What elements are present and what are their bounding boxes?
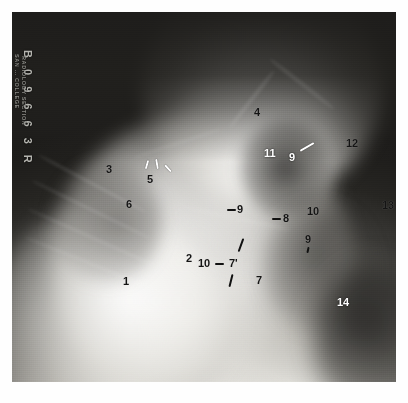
film-grain <box>12 12 396 382</box>
annotation-label-8: 8 <box>283 213 289 224</box>
xray-figure: B 0 9 6 6 3 R RADIOLOGY SECTION SAN ... … <box>0 0 408 403</box>
film-id-line2: SAN ... COLLEGE <box>14 54 20 109</box>
annotation-leader-8 <box>272 218 281 220</box>
annotation-label-1: 1 <box>123 276 129 287</box>
annotation-label-12: 12 <box>346 138 358 149</box>
annotation-label-11: 11 <box>264 148 276 159</box>
annotation-label-7-prime: 7' <box>229 258 238 269</box>
annotation-label-13: 13 <box>382 200 394 211</box>
film-id-stamp: B 0 9 6 6 3 R RADIOLOGY SECTION SAN ... … <box>26 50 60 190</box>
annotation-label-5: 5 <box>147 174 153 185</box>
annotation-label-7: 7 <box>256 275 262 286</box>
annotation-label-4: 4 <box>254 107 260 118</box>
film-id-line1: RADIOLOGY SECTION <box>21 56 27 125</box>
annotation-label-14: 14 <box>337 297 349 308</box>
annotation-label-9-right: 9 <box>305 234 311 245</box>
annotation-label-10-right: 10 <box>307 206 319 217</box>
annotation-label-10-left: 10 <box>198 258 210 269</box>
annotation-leader-9-left <box>227 209 236 211</box>
radiograph-image: B 0 9 6 6 3 R RADIOLOGY SECTION SAN ... … <box>12 12 396 382</box>
annotation-label-9-left: 9 <box>237 204 243 215</box>
annotation-label-3: 3 <box>106 164 112 175</box>
annotation-leader-10-left <box>215 263 224 265</box>
annotation-label-9-upper: 9 <box>289 152 295 163</box>
annotation-label-2: 2 <box>186 253 192 264</box>
annotation-label-6: 6 <box>126 199 132 210</box>
